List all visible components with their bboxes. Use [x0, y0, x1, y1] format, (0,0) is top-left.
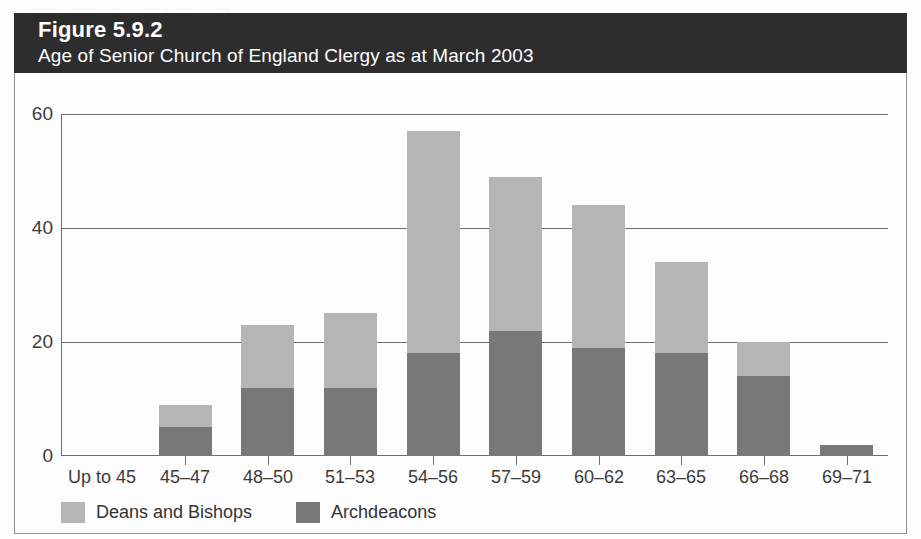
x-tick-label-1: 45–47 — [160, 466, 210, 488]
x-tick-label-9: 69–71 — [822, 466, 872, 488]
y-tick-label-20: 20 — [32, 332, 53, 351]
x-tick-label-6: 60–62 — [574, 466, 624, 488]
bar-group[interactable] — [489, 177, 542, 456]
bar-segment-archdeacons[interactable] — [737, 376, 790, 456]
x-tick-label-0: Up to 45 — [68, 466, 136, 488]
legend-swatch-deans-and-bishops — [61, 502, 85, 523]
y-tick-label-0: 0 — [42, 446, 53, 465]
bar-group[interactable] — [407, 131, 460, 456]
x-tick-mark-5 — [516, 456, 517, 465]
bar-segment-archdeacons[interactable] — [324, 388, 377, 456]
bar-group[interactable] — [572, 205, 625, 456]
bar-group[interactable] — [820, 445, 873, 456]
legend-swatch-archdeacons — [296, 502, 320, 523]
x-tick-mark-3 — [350, 456, 351, 465]
bar-segment-deans-and-bishops[interactable] — [655, 262, 708, 353]
bar-segment-archdeacons[interactable] — [489, 331, 542, 456]
bar-segment-archdeacons[interactable] — [407, 353, 460, 456]
x-tick-label-2: 48–50 — [243, 466, 293, 488]
bar-segment-archdeacons[interactable] — [241, 388, 294, 456]
scan-cutoff-text: ………… ………, ……………, ……………, — [0, 0, 921, 13]
bar-series-layer — [61, 73, 888, 456]
bar-segment-archdeacons[interactable] — [159, 427, 212, 456]
bar-segment-archdeacons[interactable] — [820, 445, 873, 456]
x-tick-mark-7 — [681, 456, 682, 465]
figure-header: Figure 5.9.2 Age of Senior Church of Eng… — [14, 13, 907, 73]
x-tick-label-3: 51–53 — [325, 466, 375, 488]
x-tick-label-8: 66–68 — [739, 466, 789, 488]
bar-segment-deans-and-bishops[interactable] — [489, 177, 542, 331]
y-axis-tick-labels: 0204060 — [15, 73, 61, 532]
x-tick-label-4: 54–56 — [408, 466, 458, 488]
figure-number: Figure 5.9.2 — [38, 16, 907, 43]
bar-group[interactable] — [241, 325, 294, 456]
bar-segment-deans-and-bishops[interactable] — [737, 342, 790, 376]
x-tick-label-5: 57–59 — [491, 466, 541, 488]
x-tick-mark-8 — [764, 456, 765, 465]
bar-group[interactable] — [159, 405, 212, 456]
bar-segment-deans-and-bishops[interactable] — [572, 205, 625, 348]
x-tick-mark-2 — [268, 456, 269, 465]
x-axis-tick-labels: Up to 4545–4748–5051–5354–5657–5960–6263… — [61, 466, 888, 492]
x-tick-label-7: 63–65 — [656, 466, 706, 488]
y-tick-label-40: 40 — [32, 218, 53, 237]
bar-chart-plot: 0204060 Up to 4545–4748–5051–5354–5657–5… — [15, 73, 906, 532]
bar-segment-deans-and-bishops[interactable] — [324, 313, 377, 388]
bar-group[interactable] — [655, 262, 708, 456]
bar-segment-deans-and-bishops[interactable] — [407, 131, 460, 353]
bar-segment-deans-and-bishops[interactable] — [159, 405, 212, 427]
bar-segment-archdeacons[interactable] — [655, 353, 708, 456]
figure-card: Figure 5.9.2 Age of Senior Church of Eng… — [14, 13, 907, 534]
legend-item[interactable]: Deans and Bishops — [61, 502, 252, 523]
x-tick-mark-9 — [847, 456, 848, 465]
figure-screenshot: ………… ………, ……………, ……………, Figure 5.9.2 Age… — [0, 0, 921, 539]
bar-segment-deans-and-bishops[interactable] — [241, 325, 294, 388]
x-tick-mark-4 — [433, 456, 434, 465]
figure-body: 0204060 Up to 4545–4748–5051–5354–5657–5… — [14, 73, 907, 534]
bar-group[interactable] — [737, 342, 790, 456]
figure-title: Age of Senior Church of England Clergy a… — [38, 43, 907, 68]
x-tick-mark-6 — [599, 456, 600, 465]
chart-legend: Deans and BishopsArchdeacons — [61, 498, 480, 526]
legend-label: Archdeacons — [331, 502, 436, 523]
bar-segment-archdeacons[interactable] — [572, 348, 625, 456]
bar-group[interactable] — [324, 313, 377, 456]
legend-item[interactable]: Archdeacons — [296, 502, 436, 523]
x-axis-tick-marks — [61, 456, 888, 465]
x-tick-mark-1 — [185, 456, 186, 465]
y-tick-label-60: 60 — [32, 104, 53, 123]
legend-label: Deans and Bishops — [96, 502, 252, 523]
